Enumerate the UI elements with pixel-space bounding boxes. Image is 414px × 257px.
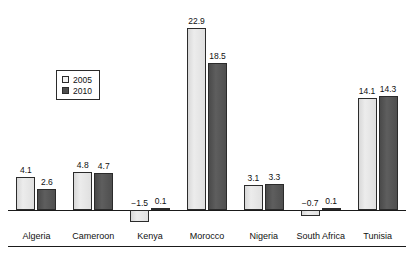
value-label-algeria-2010: 2.6 — [31, 178, 62, 187]
bar-tunisia-2005 — [358, 98, 377, 210]
value-label-morocco-2010: 18.5 — [202, 52, 233, 61]
value-label-kenya-2010: 0.1 — [145, 197, 176, 206]
value-label-nigeria-2010: 3.3 — [259, 173, 290, 182]
value-label-tunisia-2010: 14.3 — [373, 85, 404, 94]
value-label-algeria-2005: 4.1 — [10, 166, 41, 175]
category-label-tunisia: Tunisia — [349, 231, 406, 242]
category-label-south-africa: South Africa — [292, 231, 349, 242]
category-label-kenya: Kenya — [122, 231, 179, 242]
bar-nigeria-2010 — [265, 184, 284, 210]
bar-morocco-2010 — [208, 63, 227, 210]
bar-cameroon-2010 — [94, 173, 113, 210]
dark-square-icon — [62, 87, 69, 94]
value-label-morocco-2005: 22.9 — [181, 17, 212, 26]
value-label-south-africa-2010: 0.1 — [316, 197, 347, 206]
legend-label-2005: 2005 — [73, 75, 92, 85]
bar-kenya-2005 — [130, 210, 149, 222]
bar-cameroon-2005 — [73, 172, 92, 210]
plot-area: 4.12.64.84.7−1.50.122.918.53.13.3−0.70.1… — [8, 6, 406, 228]
bar-south-africa-2005 — [301, 210, 320, 216]
bar-kenya-2010 — [151, 208, 170, 210]
category-label-cameroon: Cameroon — [65, 231, 122, 242]
bar-algeria-2010 — [37, 189, 56, 210]
value-label-cameroon-2010: 4.7 — [88, 162, 119, 171]
bottom-rule — [8, 246, 406, 247]
bar-tunisia-2010 — [379, 96, 398, 210]
legend-item-2010[interactable]: 2010 — [62, 85, 92, 96]
chart-legend: 2005 2010 — [56, 70, 100, 100]
category-label-nigeria: Nigeria — [235, 231, 292, 242]
light-square-icon — [62, 76, 69, 83]
bar-nigeria-2005 — [244, 185, 263, 210]
bar-chart: 4.12.64.84.7−1.50.122.918.53.13.3−0.70.1… — [0, 0, 414, 257]
legend-item-2005[interactable]: 2005 — [62, 74, 92, 85]
zero-axis-line — [8, 210, 406, 211]
bar-south-africa-2010 — [322, 208, 341, 210]
category-label-algeria: Algeria — [8, 231, 65, 242]
legend-label-2010: 2010 — [73, 86, 92, 96]
category-label-morocco: Morocco — [179, 231, 236, 242]
